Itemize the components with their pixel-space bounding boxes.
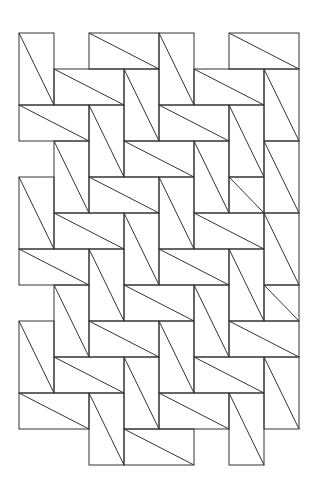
vertical-tile bbox=[264, 141, 299, 213]
horizontal-tile bbox=[54, 213, 124, 249]
vertical-tile bbox=[159, 321, 194, 393]
vertical-tile bbox=[124, 69, 159, 141]
vertical-tile bbox=[19, 321, 54, 393]
horizontal-tile bbox=[229, 33, 299, 69]
horizontal-tile bbox=[194, 213, 264, 249]
horizontal-tile bbox=[229, 321, 299, 357]
vertical-tile bbox=[89, 105, 124, 177]
vertical-tile bbox=[229, 105, 264, 177]
horizontal-tile bbox=[194, 69, 264, 105]
vertical-tile bbox=[264, 285, 299, 321]
herringbone-tessellation bbox=[0, 0, 322, 495]
vertical-tile bbox=[159, 33, 194, 105]
vertical-tile bbox=[229, 393, 264, 465]
horizontal-tile bbox=[89, 321, 159, 357]
vertical-tile bbox=[229, 249, 264, 321]
vertical-tile bbox=[19, 177, 54, 249]
vertical-tile bbox=[89, 249, 124, 321]
horizontal-tile bbox=[159, 105, 229, 141]
horizontal-tile bbox=[159, 393, 229, 429]
horizontal-tile bbox=[54, 69, 124, 105]
horizontal-tile bbox=[89, 177, 159, 213]
horizontal-tile bbox=[124, 429, 194, 465]
vertical-tile bbox=[229, 177, 264, 213]
horizontal-tile bbox=[124, 141, 194, 177]
vertical-tile bbox=[124, 213, 159, 285]
vertical-tile bbox=[54, 141, 89, 213]
vertical-tile bbox=[89, 393, 124, 465]
horizontal-tile bbox=[194, 357, 264, 393]
horizontal-tile bbox=[54, 357, 124, 393]
horizontal-tile bbox=[19, 393, 89, 429]
vertical-tile bbox=[124, 357, 159, 429]
vertical-tile bbox=[54, 285, 89, 357]
vertical-tile bbox=[159, 177, 194, 249]
horizontal-tile bbox=[159, 249, 229, 285]
vertical-tile bbox=[194, 285, 229, 357]
horizontal-tile bbox=[19, 249, 89, 285]
vertical-tile bbox=[19, 33, 54, 105]
horizontal-tile bbox=[19, 105, 89, 141]
vertical-tile bbox=[264, 357, 299, 429]
vertical-tile bbox=[264, 69, 299, 141]
vertical-tile bbox=[264, 213, 299, 285]
horizontal-tile bbox=[124, 285, 194, 321]
vertical-tile bbox=[194, 141, 229, 213]
horizontal-tile bbox=[89, 33, 159, 69]
